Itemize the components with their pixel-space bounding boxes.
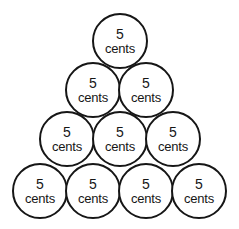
coin-unit: cents — [78, 91, 108, 104]
coin: 5 cents — [12, 163, 68, 219]
coin-amount: 5 — [142, 177, 150, 191]
coin: 5 cents — [65, 163, 121, 219]
coin-amount: 5 — [36, 177, 44, 191]
coin-unit: cents — [158, 140, 188, 153]
coin: 5 cents — [39, 111, 95, 167]
coin: 5 cents — [65, 62, 121, 118]
coin-amount: 5 — [89, 177, 97, 191]
coin-unit: cents — [78, 192, 108, 205]
coin: 5 cents — [145, 111, 201, 167]
coin: 5 cents — [118, 62, 174, 118]
coin-unit: cents — [184, 192, 214, 205]
coin: 5 cents — [92, 13, 148, 69]
coin-pyramid-figure: 5 cents 5 cents 5 cents 5 cents 5 cents … — [0, 0, 239, 229]
coin-amount: 5 — [116, 125, 124, 139]
coin-unit: cents — [131, 91, 161, 104]
coin: 5 cents — [92, 111, 148, 167]
coin-amount: 5 — [195, 177, 203, 191]
coin-amount: 5 — [142, 76, 150, 90]
coin-unit: cents — [131, 192, 161, 205]
coin-amount: 5 — [63, 125, 71, 139]
coin-unit: cents — [105, 140, 135, 153]
coin-unit: cents — [52, 140, 82, 153]
coin-amount: 5 — [169, 125, 177, 139]
coin: 5 cents — [171, 163, 227, 219]
coin: 5 cents — [118, 163, 174, 219]
coin-unit: cents — [25, 192, 55, 205]
coin-amount: 5 — [116, 27, 124, 41]
coin-unit: cents — [105, 42, 135, 55]
coin-amount: 5 — [89, 76, 97, 90]
